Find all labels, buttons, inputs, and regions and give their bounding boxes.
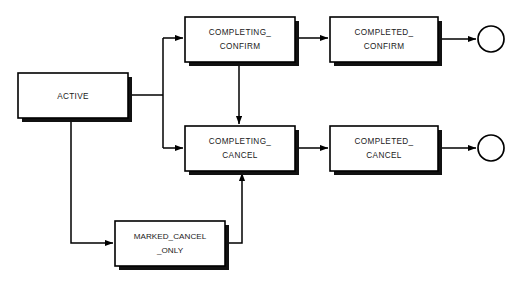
node-completed-confirm-label-line2: CONFIRM	[364, 42, 405, 51]
node-completed-confirm-box	[330, 17, 438, 62]
node-completed-cancel[interactable]: COMPLETED_ CANCEL	[330, 126, 442, 175]
node-completed-cancel-box	[330, 126, 438, 171]
node-completing-confirm[interactable]: COMPLETING_ CONFIRM	[185, 17, 299, 66]
node-completing-cancel-label-line1: COMPLETING_	[209, 137, 272, 146]
node-completed-cancel-label-line2: CANCEL	[366, 151, 401, 160]
end-state-cancel-icon	[478, 135, 504, 161]
node-marked-cancel-only-box	[115, 221, 225, 266]
node-marked-cancel-only-label-line1: MARKED_CANCEL	[134, 232, 207, 241]
edge-marked-cancel-only-to-completing-cancel	[228, 173, 242, 243]
node-active-label-line1: ACTIVE	[57, 92, 89, 101]
node-completing-confirm-label-line1: COMPLETING_	[209, 28, 272, 37]
node-completing-cancel-label-line2: CANCEL	[222, 151, 257, 160]
edge-active-to-marked-cancel-only	[71, 118, 113, 243]
node-marked-cancel-only-label-line2: _ONLY	[156, 246, 184, 255]
state-diagram: ACTIVE COMPLETING_ CONFIRM COMPLETED_ CO…	[0, 0, 518, 281]
node-completing-cancel-box	[185, 126, 295, 171]
node-completed-confirm-label-line1: COMPLETED_	[354, 28, 413, 37]
node-completed-confirm[interactable]: COMPLETED_ CONFIRM	[330, 17, 442, 66]
end-state-confirm-icon	[478, 26, 504, 52]
node-completed-cancel-label-line1: COMPLETED_	[354, 137, 413, 146]
node-marked-cancel-only[interactable]: MARKED_CANCEL _ONLY	[115, 221, 229, 270]
node-completing-confirm-box	[185, 17, 295, 62]
node-completing-confirm-label-line2: CONFIRM	[220, 42, 261, 51]
node-completing-cancel[interactable]: COMPLETING_ CANCEL	[185, 126, 299, 175]
state-diagram-canvas: ACTIVE COMPLETING_ CONFIRM COMPLETED_ CO…	[0, 0, 518, 281]
node-active[interactable]: ACTIVE	[18, 73, 132, 122]
